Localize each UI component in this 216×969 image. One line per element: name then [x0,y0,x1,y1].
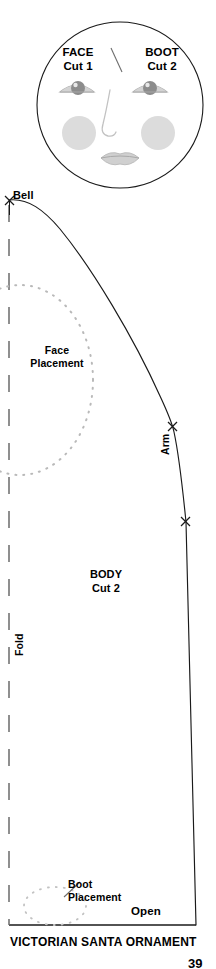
body-piece-cut-label: Cut 2 [70,582,142,594]
body-piece [0,196,196,925]
page-number: 39 [188,957,203,969]
face-placement-label-line1: Face [18,345,96,357]
fold-marker-label: Fold [14,633,26,656]
right-eye-icon [133,81,167,95]
open-marker-label: Open [131,905,161,918]
body-outline-right-curve [9,200,196,925]
boot-placement-label-line1: Boot [68,879,92,891]
left-cheek-icon [62,116,96,150]
face-boot-divider-slash [111,48,122,72]
body-piece-name-label: BODY [70,568,142,580]
mouth-icon [101,153,139,165]
left-eye-icon [60,81,94,95]
face-placement-label-line2: Placement [18,358,96,370]
boot-piece-cut-label: Cut 2 [131,60,193,73]
pattern-sheet: FACE Cut 1 BOOT Cut 2 Bell Face Placemen… [0,0,216,969]
arm-notch-marker-top [168,422,177,431]
right-cheek-icon [141,116,175,150]
face-piece-cut-label: Cut 1 [47,60,109,73]
nose-icon [102,90,116,136]
face-piece-name-label: FACE [47,46,109,59]
face-placement-dotted-circle [0,285,93,475]
boot-placement-label-line2: Placement [68,892,121,904]
pattern-title: VICTORIAN SANTA ORNAMENT [10,936,197,949]
pattern-drawing [0,0,216,969]
boot-piece-name-label: BOOT [131,46,193,59]
arm-marker-label: Arm [160,434,172,455]
bell-marker-label: Bell [13,189,34,201]
